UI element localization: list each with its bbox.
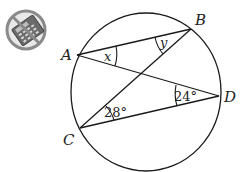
- segment-AB: [77, 29, 191, 55]
- no-calculator-icon: [7, 11, 45, 49]
- segment-BC: [80, 29, 191, 128]
- geometry-diagram: A B C D x y 28° 24°: [0, 0, 241, 172]
- circle: [71, 13, 221, 171]
- point-label-D: D: [223, 88, 236, 106]
- segment-AD: [77, 55, 219, 96]
- point-label-C: C: [63, 131, 75, 149]
- angle-label-x: x: [104, 49, 112, 64]
- angle-arc-x: [115, 46, 117, 66]
- angle-label-y: y: [159, 35, 168, 50]
- segment-CD: [80, 96, 219, 128]
- point-label-B: B: [194, 11, 206, 29]
- angle-label-28: 28°: [104, 105, 127, 120]
- point-label-A: A: [59, 46, 72, 64]
- angle-label-24: 24°: [174, 89, 197, 104]
